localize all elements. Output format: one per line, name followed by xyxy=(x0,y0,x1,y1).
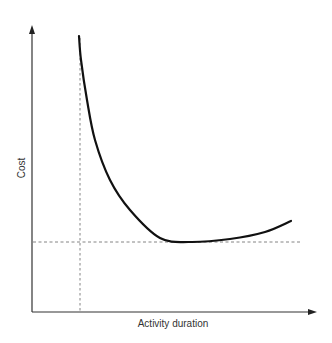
y-axis-label: Cost xyxy=(15,153,29,183)
cost-duration-diagram xyxy=(0,0,332,343)
y-axis-arrow-icon xyxy=(29,25,35,34)
x-axis-label: Activity duration xyxy=(112,317,234,331)
cost-curve xyxy=(79,36,291,242)
x-axis-arrow-icon xyxy=(308,309,317,315)
